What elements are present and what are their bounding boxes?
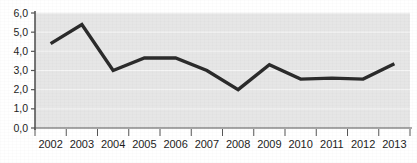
chart-canvas: 0,01,02,03,04,05,06,0 200220032004200520… xyxy=(0,0,417,163)
x-tick-label: 2002 xyxy=(38,138,62,150)
y-axis-tick-labels: 0,01,02,03,04,05,06,0 xyxy=(13,7,28,134)
y-tick-label: 3,0 xyxy=(13,64,28,76)
x-tick-label: 2011 xyxy=(320,138,344,150)
x-tick-label: 2004 xyxy=(101,138,125,150)
line-chart: 0,01,02,03,04,05,06,0 200220032004200520… xyxy=(0,0,417,163)
x-tick-label: 2007 xyxy=(195,138,219,150)
x-tick-label: 2008 xyxy=(226,138,250,150)
y-tick-label: 4,0 xyxy=(13,45,28,57)
x-tick-label: 2006 xyxy=(163,138,187,150)
y-tick-label: 0,0 xyxy=(13,122,28,134)
y-tick-label: 6,0 xyxy=(13,7,28,19)
x-tick-label: 2005 xyxy=(132,138,156,150)
x-axis-ticks xyxy=(35,129,410,136)
x-tick-label: 2009 xyxy=(257,138,281,150)
x-tick-label: 2010 xyxy=(288,138,312,150)
y-tick-label: 5,0 xyxy=(13,26,28,38)
x-tick-label: 2003 xyxy=(70,138,94,150)
x-axis-tick-labels: 2002200320042005200620072008200920102011… xyxy=(38,138,406,150)
y-tick-label: 2,0 xyxy=(13,83,28,95)
x-tick-label: 2013 xyxy=(382,138,406,150)
x-tick-label: 2012 xyxy=(351,138,375,150)
y-tick-label: 1,0 xyxy=(13,102,28,114)
